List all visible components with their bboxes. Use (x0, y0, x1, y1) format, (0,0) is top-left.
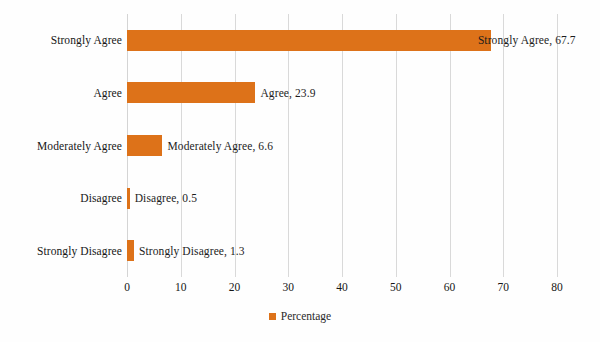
bar-row: Strongly Disagree, 1.3 (127, 240, 557, 261)
x-axis: 01020304050607080 (127, 277, 557, 301)
category-label: Strongly Disagree (4, 245, 122, 257)
bar (127, 135, 162, 156)
legend-swatch-percentage (269, 313, 276, 320)
x-tick-label: 60 (444, 281, 456, 293)
bar (127, 82, 255, 103)
legend-label-percentage: Percentage (281, 310, 331, 322)
bar-data-label: Moderately Agree, 6.6 (167, 140, 273, 152)
category-axis: Strongly AgreeAgreeModerately AgreeDisag… (0, 14, 122, 277)
bar-data-label: Strongly Disagree, 1.3 (139, 245, 245, 257)
category-label: Disagree (4, 192, 122, 204)
category-label: Strongly Agree (4, 34, 122, 46)
chart-legend: Percentage (0, 310, 600, 322)
x-tick-label: 80 (551, 281, 563, 293)
category-label: Moderately Agree (4, 140, 122, 152)
bar-row: Disagree, 0.5 (127, 188, 557, 209)
plot-area: Strongly Agree, 67.7Agree, 23.9Moderatel… (127, 14, 557, 277)
category-label: Agree (4, 87, 122, 99)
bar (127, 240, 134, 261)
bar (127, 30, 491, 51)
bar-chart: Strongly AgreeAgreeModerately AgreeDisag… (0, 0, 600, 342)
x-tick-label: 20 (229, 281, 241, 293)
x-tick-label: 40 (336, 281, 348, 293)
x-tick-label: 10 (175, 281, 187, 293)
bar-data-label: Agree, 23.9 (260, 87, 315, 99)
x-tick-label: 50 (390, 281, 402, 293)
bar-row: Strongly Agree, 67.7 (127, 30, 557, 51)
bar-data-label: Strongly Agree, 67.7 (478, 34, 576, 46)
bar-row: Agree, 23.9 (127, 82, 557, 103)
x-tick-label: 0 (124, 281, 130, 293)
x-tick-label: 70 (498, 281, 510, 293)
gridline-80 (557, 14, 558, 277)
bar-data-label: Disagree, 0.5 (135, 192, 197, 204)
bar (127, 188, 130, 209)
x-tick-label: 30 (283, 281, 295, 293)
bar-row: Moderately Agree, 6.6 (127, 135, 557, 156)
